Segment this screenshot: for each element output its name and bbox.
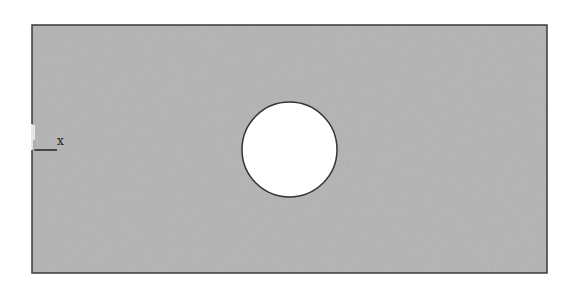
x-axis-label: x — [57, 135, 64, 147]
plate-diagram — [0, 0, 570, 290]
circular-hole — [242, 102, 337, 197]
